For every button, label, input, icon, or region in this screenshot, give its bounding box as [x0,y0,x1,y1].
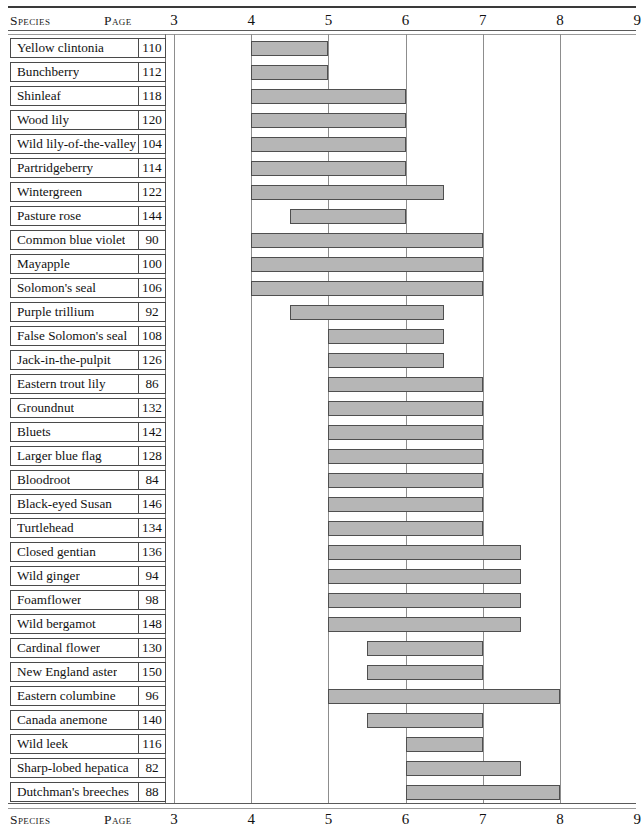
species-name: Partridgeberry [17,159,93,177]
species-label-box[interactable]: Turtlehead134 [10,518,166,538]
table-row[interactable]: Foamflower98 [0,588,644,612]
page-number: 134 [139,519,165,537]
page-number: 94 [139,567,165,585]
page-number: 86 [139,375,165,393]
table-row[interactable]: Wild lily-of-the-valley104 [0,132,644,156]
page-number: 100 [139,255,165,273]
table-row[interactable]: False Solomon's seal108 [0,324,644,348]
species-label-box[interactable]: Wintergreen122 [10,182,166,202]
species-label-box[interactable]: Dutchman's breeches88 [10,782,166,802]
species-label-box[interactable]: Jack-in-the-pulpit126 [10,350,166,370]
page-number: 114 [139,159,165,177]
species-label-box[interactable]: Wild lily-of-the-valley104 [10,134,166,154]
species-label-box[interactable]: Larger blue flag128 [10,446,166,466]
species-label-box[interactable]: Partridgeberry114 [10,158,166,178]
table-row[interactable]: Bunchberry112 [0,60,644,84]
page-number: 150 [139,663,165,681]
species-name: Bunchberry [17,63,79,81]
range-bar [251,65,328,80]
species-label-box[interactable]: Closed gentian136 [10,542,166,562]
x-tick-label-8: 8 [556,12,564,29]
table-row[interactable]: Partridgeberry114 [0,156,644,180]
table-row[interactable]: Eastern trout lily86 [0,372,644,396]
species-label-box[interactable]: Wild bergamot148 [10,614,166,634]
range-bar [328,569,521,584]
species-label-box[interactable]: Bluets142 [10,422,166,442]
table-row[interactable]: Turtlehead134 [0,516,644,540]
species-label-box[interactable]: Bunchberry112 [10,62,166,82]
species-label-box[interactable]: Sharp-lobed hepatica82 [10,758,166,778]
table-row[interactable]: Wild ginger94 [0,564,644,588]
range-bar [251,89,405,104]
table-row[interactable]: Purple trillium92 [0,300,644,324]
species-label-box[interactable]: False Solomon's seal108 [10,326,166,346]
species-name: Wild ginger [17,567,80,585]
species-label-box[interactable]: Wood lily120 [10,110,166,130]
species-label-box[interactable]: Shinleaf118 [10,86,166,106]
page-number: 90 [139,231,165,249]
table-row[interactable]: Solomon's seal106 [0,276,644,300]
table-row[interactable]: Cardinal flower130 [0,636,644,660]
page-number: 146 [139,495,165,513]
table-row[interactable]: Groundnut132 [0,396,644,420]
species-label-box[interactable]: Eastern trout lily86 [10,374,166,394]
species-name: Eastern trout lily [17,375,106,393]
species-label-box[interactable]: Purple trillium92 [10,302,166,322]
table-row[interactable]: Sharp-lobed hepatica82 [0,756,644,780]
species-name: Cardinal flower [17,639,100,657]
table-row[interactable]: Black-eyed Susan146 [0,492,644,516]
table-row[interactable]: Pasture rose144 [0,204,644,228]
page-number: 118 [139,87,165,105]
header-band: Species Page 3456789 [0,13,644,31]
x-tick-label-4: 4 [247,12,255,29]
species-label-box[interactable]: Groundnut132 [10,398,166,418]
table-row[interactable]: Wood lily120 [0,108,644,132]
species-label-box[interactable]: Cardinal flower130 [10,638,166,658]
table-row[interactable]: Wintergreen122 [0,180,644,204]
table-row[interactable]: Canada anemone140 [0,708,644,732]
range-bar [406,761,522,776]
table-row[interactable]: Bloodroot84 [0,468,644,492]
species-label-box[interactable]: Pasture rose144 [10,206,166,226]
species-name: Eastern columbine [17,687,116,705]
species-label-box[interactable]: Wild ginger94 [10,566,166,586]
chart-rows: Yellow clintonia110Bunchberry112Shinleaf… [0,36,644,804]
species-name: Shinleaf [17,87,61,105]
species-label-box[interactable]: Common blue violet90 [10,230,166,250]
species-name: Wild lily-of-the-valley [17,135,136,153]
species-label-box[interactable]: Foamflower98 [10,590,166,610]
species-label-box[interactable]: Mayapple100 [10,254,166,274]
table-row[interactable]: Jack-in-the-pulpit126 [0,348,644,372]
species-label-box[interactable]: Wild leek116 [10,734,166,754]
species-name: Bluets [17,423,51,441]
table-row[interactable]: Wild leek116 [0,732,644,756]
table-row[interactable]: Dutchman's breeches88 [0,780,644,804]
species-label-box[interactable]: Solomon's seal106 [10,278,166,298]
species-name: New England aster [17,663,117,681]
x-tick-label-7: 7 [479,811,487,828]
table-row[interactable]: Mayapple100 [0,252,644,276]
species-label-box[interactable]: Eastern columbine96 [10,686,166,706]
species-label-box[interactable]: Canada anemone140 [10,710,166,730]
species-label-box[interactable]: Bloodroot84 [10,470,166,490]
table-row[interactable]: New England aster150 [0,660,644,684]
page-number: 140 [139,711,165,729]
table-row[interactable]: Wild bergamot148 [0,612,644,636]
footer-rule-upper [8,803,636,804]
range-bar [406,737,483,752]
table-row[interactable]: Yellow clintonia110 [0,36,644,60]
table-row[interactable]: Shinleaf118 [0,84,644,108]
species-name: Solomon's seal [17,279,96,297]
table-row[interactable]: Closed gentian136 [0,540,644,564]
page-number: 88 [139,783,165,801]
table-row[interactable]: Eastern columbine96 [0,684,644,708]
table-row[interactable]: Larger blue flag128 [0,444,644,468]
species-name: Closed gentian [17,543,96,561]
species-name: Purple trillium [17,303,94,321]
species-label-box[interactable]: New England aster150 [10,662,166,682]
table-row[interactable]: Common blue violet90 [0,228,644,252]
range-bar [328,593,521,608]
table-row[interactable]: Bluets142 [0,420,644,444]
species-label-box[interactable]: Black-eyed Susan146 [10,494,166,514]
species-label-box[interactable]: Yellow clintonia110 [10,38,166,58]
